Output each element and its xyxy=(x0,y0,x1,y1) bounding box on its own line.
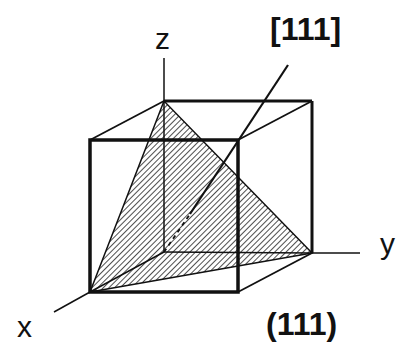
cube-drawing xyxy=(0,0,414,358)
miller-indices-diagram: z [111] y x (111) xyxy=(0,0,414,358)
direction-label: [111] xyxy=(270,13,341,45)
z-axis-label: z xyxy=(155,24,170,54)
y-axis-label: y xyxy=(380,229,395,259)
top-right-edge xyxy=(238,101,312,140)
x-axis xyxy=(54,292,90,312)
plane-label: (111) xyxy=(266,308,337,340)
x-axis-label: x xyxy=(17,312,32,342)
